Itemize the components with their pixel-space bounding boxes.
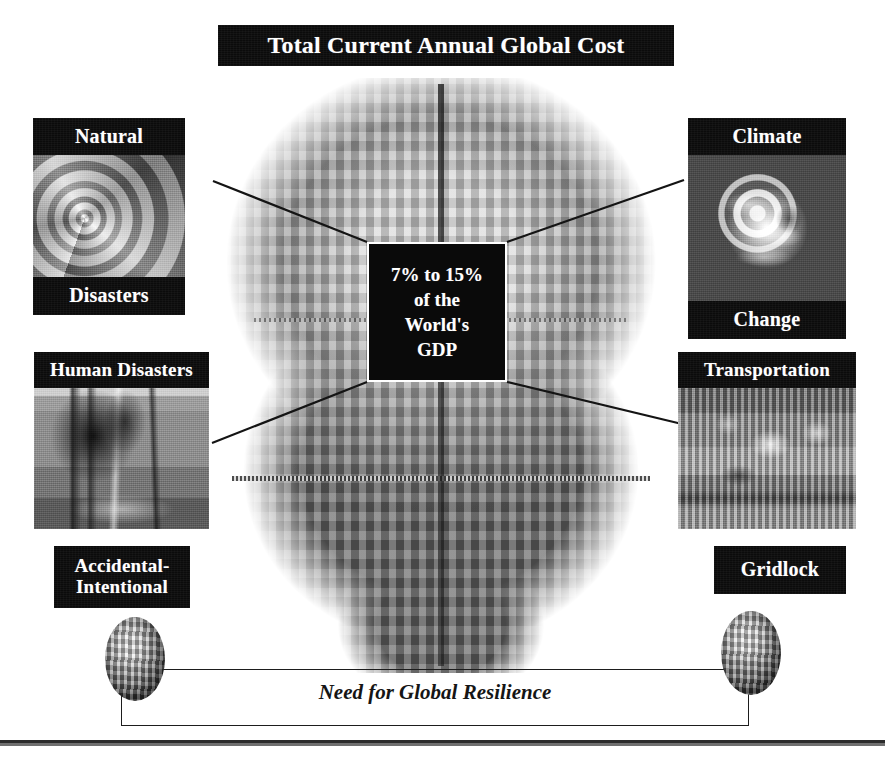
hurricane-image xyxy=(33,155,185,277)
label-accidental-intentional: Accidental- Intentional xyxy=(54,546,190,608)
label-climate: Climate xyxy=(688,118,846,155)
label-human-disasters: Human Disasters xyxy=(34,352,209,388)
gdp-line-1: 7% to 15% xyxy=(391,262,483,287)
label-change: Change xyxy=(688,301,846,339)
label-transportation: Transportation xyxy=(678,352,856,388)
bottom-rule xyxy=(0,740,885,746)
label-accidental: Accidental- xyxy=(74,556,169,577)
page-title: Total Current Annual Global Cost xyxy=(218,25,674,66)
label-disasters: Disasters xyxy=(33,277,185,315)
label-intentional: Intentional xyxy=(76,577,168,598)
right-mini-globe-icon xyxy=(721,611,781,695)
label-natural: Natural xyxy=(33,118,185,155)
gdp-cost-callout: 7% to 15% of the World's GDP xyxy=(367,242,507,382)
industrial-fire-image xyxy=(34,388,209,529)
gdp-line-2: of the xyxy=(414,287,460,312)
resilience-caption: Need for Global Resilience xyxy=(121,680,749,705)
left-mini-globe-icon xyxy=(105,617,165,701)
earth-image xyxy=(688,155,846,301)
diagram-canvas: Total Current Annual Global Cost 7% to 1… xyxy=(0,0,885,763)
gdp-line-4: GDP xyxy=(417,337,457,362)
gdp-line-3: World's xyxy=(405,312,469,337)
label-gridlock: Gridlock xyxy=(714,546,846,594)
traffic-jam-image xyxy=(678,388,856,529)
